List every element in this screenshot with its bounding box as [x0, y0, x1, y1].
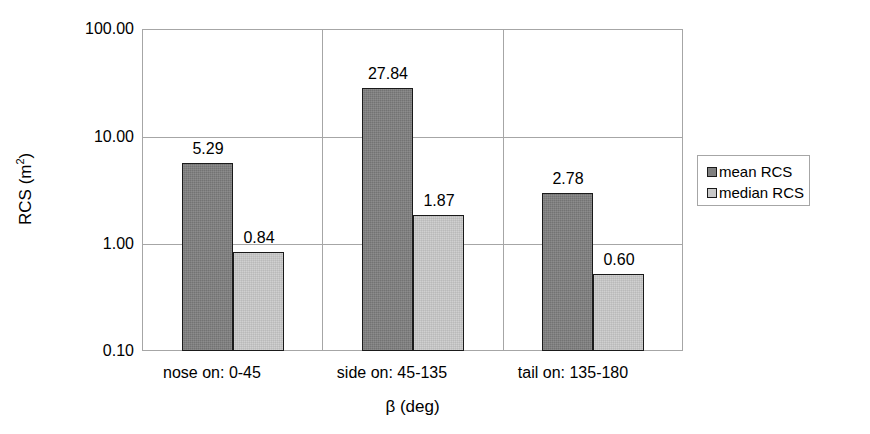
legend-item-median-rcs[interactable]: median RCS — [707, 183, 809, 202]
data-label-mean-side-on: 27.84 — [348, 66, 428, 82]
bar-mean-tail-on[interactable] — [542, 193, 593, 351]
y-tick-label-0-1: 0.10 — [103, 343, 134, 359]
y-axis-tick-labels: 100.00 10.00 1.00 0.10 — [30, 29, 134, 351]
legend-swatch-median-icon — [707, 188, 717, 198]
data-label-mean-nose-on: 5.29 — [168, 141, 248, 157]
group-separator-2 — [503, 30, 504, 350]
legend-label-mean-rcs: mean RCS — [719, 164, 792, 179]
plot-area: 5.29 0.84 27.84 1.87 2.78 0.60 — [142, 29, 683, 351]
x-tick-label-tail-on: tail on: 135-180 — [483, 365, 663, 381]
y-tick-label-1: 1.00 — [103, 236, 134, 252]
rcs-bar-chart: RCS (m2) 100.00 10.00 1.00 0.10 5.29 0.8… — [0, 0, 870, 434]
y-tick-label-100: 100.00 — [85, 21, 134, 37]
legend-label-median-rcs: median RCS — [719, 185, 804, 200]
bar-median-nose-on[interactable] — [233, 252, 284, 351]
group-separator-1 — [322, 30, 323, 350]
bar-mean-side-on[interactable] — [362, 88, 413, 351]
y-tick-label-10: 10.00 — [94, 129, 134, 145]
bar-mean-nose-on[interactable] — [182, 163, 233, 351]
x-tick-label-side-on: side on: 45-135 — [302, 365, 482, 381]
legend-item-mean-rcs[interactable]: mean RCS — [707, 162, 809, 181]
data-label-median-side-on: 1.87 — [399, 193, 479, 209]
legend-swatch-mean-icon — [707, 167, 717, 177]
data-label-median-tail-on: 0.60 — [579, 252, 659, 268]
x-axis-title: β (deg) — [142, 397, 683, 417]
y-axis-title-exponent: 2 — [14, 158, 26, 164]
bar-median-side-on[interactable] — [413, 215, 464, 351]
data-label-median-nose-on: 0.84 — [219, 230, 299, 246]
legend: mean RCS median RCS — [697, 155, 810, 206]
x-tick-label-nose-on: nose on: 0-45 — [122, 365, 302, 381]
data-label-mean-tail-on: 2.78 — [528, 171, 608, 187]
bar-median-tail-on[interactable] — [593, 274, 644, 351]
